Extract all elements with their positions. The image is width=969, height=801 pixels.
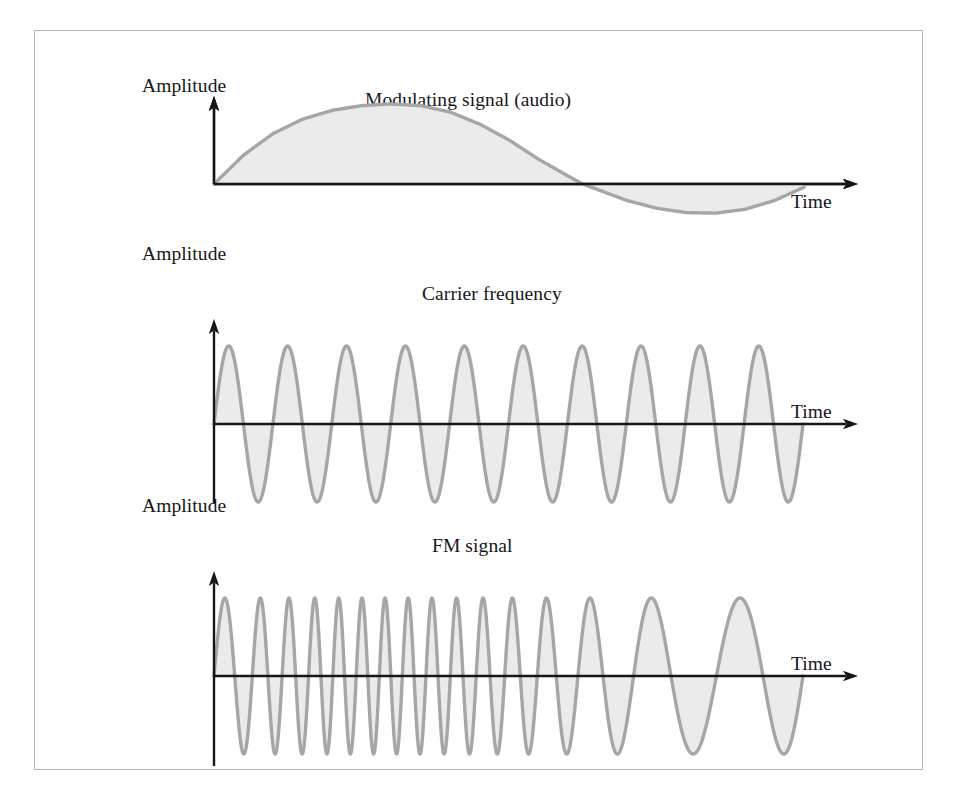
panel-3-plot xyxy=(35,483,924,801)
panel-1-plot xyxy=(35,31,924,231)
figure-root: Amplitude Modulating signal (audio) Time… xyxy=(0,0,969,801)
figure-frame: Amplitude Modulating signal (audio) Time… xyxy=(34,30,923,770)
